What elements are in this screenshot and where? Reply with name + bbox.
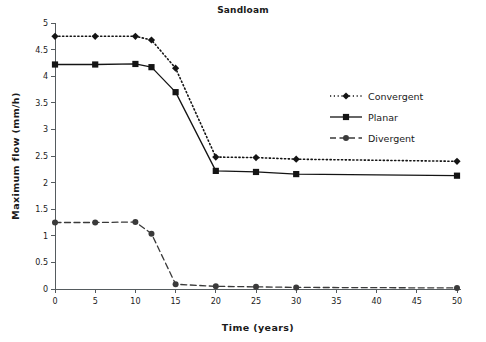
data-point-marker [342, 92, 349, 99]
data-point-marker [148, 231, 154, 237]
x-tick-label: 5 [93, 297, 98, 306]
series-line [55, 222, 457, 288]
data-point-marker [293, 156, 300, 163]
y-tick-label: 3 [43, 125, 48, 134]
y-tick-label: 2 [43, 179, 48, 188]
data-point-marker [92, 33, 99, 40]
legend-label: Convergent [368, 91, 424, 102]
data-point-marker [343, 135, 349, 141]
x-tick-label: 0 [52, 297, 57, 306]
y-tick-group: 00.511.522.533.544.55 [35, 19, 55, 294]
data-point-marker [293, 284, 299, 290]
data-point-marker [212, 153, 219, 160]
data-point-marker [52, 220, 58, 226]
data-point-marker [453, 158, 460, 165]
data-point-marker [454, 173, 460, 179]
data-point-marker [293, 171, 299, 177]
chart-legend: ConvergentPlanarDivergent [330, 91, 424, 144]
data-point-marker [213, 283, 219, 289]
x-tick-label: 15 [171, 297, 181, 306]
x-tick-label: 50 [452, 297, 462, 306]
x-tick-label: 20 [211, 297, 221, 306]
y-tick-label: 4.5 [35, 46, 48, 55]
data-point-marker [173, 281, 179, 287]
data-point-marker [92, 61, 98, 67]
y-tick-label: 1 [43, 232, 48, 241]
data-point-marker [148, 64, 154, 70]
data-point-marker [52, 61, 58, 67]
data-point-marker [253, 169, 259, 175]
x-tick-label: 10 [130, 297, 140, 306]
x-tick-label: 45 [412, 297, 422, 306]
y-tick-label: 4 [43, 72, 48, 81]
data-point-marker [454, 285, 460, 291]
x-tick-label: 25 [251, 297, 261, 306]
legend-label: Planar [368, 112, 398, 123]
legend-item-planar[interactable]: Planar [330, 112, 398, 123]
data-point-marker [173, 89, 179, 95]
series-divergent [52, 219, 460, 291]
x-tick-label: 40 [372, 297, 382, 306]
data-point-marker [253, 284, 259, 290]
x-tick-label: 30 [291, 297, 301, 306]
data-point-marker [252, 154, 259, 161]
data-point-marker [51, 33, 58, 40]
data-point-marker [132, 61, 138, 67]
data-point-marker [213, 168, 219, 174]
y-tick-label: 1.5 [35, 205, 48, 214]
data-point-marker [132, 219, 138, 225]
y-tick-label: 0.5 [35, 258, 48, 267]
chart-figure: Sandloam 00.511.522.533.544.55 051015202… [0, 0, 486, 342]
y-tick-label: 3.5 [35, 99, 48, 108]
data-series-group [51, 33, 460, 291]
plot-canvas: 00.511.522.533.544.55 051015202530354045… [0, 0, 486, 342]
y-axis-title: Maximum flow (mm/h) [10, 92, 21, 219]
data-point-marker [92, 220, 98, 226]
data-point-marker [132, 33, 139, 40]
y-tick-label: 5 [43, 19, 48, 28]
y-tick-label: 0 [43, 285, 48, 294]
legend-item-convergent[interactable]: Convergent [330, 91, 424, 102]
legend-item-divergent[interactable]: Divergent [330, 133, 415, 144]
y-tick-label: 2.5 [35, 152, 48, 161]
x-axis-title: Time (years) [222, 322, 294, 333]
x-tick-label: 35 [331, 297, 341, 306]
x-tick-group: 05101520253035404550 [52, 289, 462, 306]
legend-label: Divergent [368, 133, 415, 144]
data-point-marker [343, 114, 349, 120]
